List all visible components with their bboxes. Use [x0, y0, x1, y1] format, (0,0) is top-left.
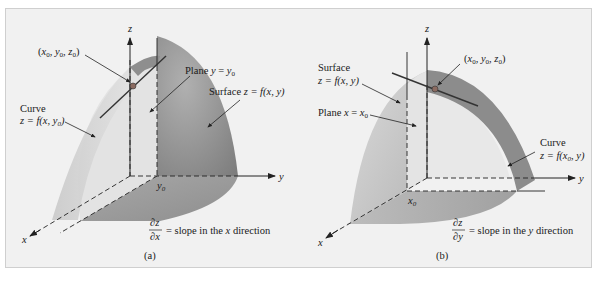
y-axis-label: y: [278, 171, 284, 182]
z-axis-label: z: [127, 23, 132, 34]
caption-b: (b): [436, 250, 449, 262]
svg-text:∂z: ∂z: [150, 217, 159, 228]
point-label: (x0, y0, z0): [38, 46, 80, 59]
z-axis-label: z: [424, 23, 429, 34]
point-leader: [85, 55, 130, 82]
x-axis: [326, 230, 338, 238]
svg-text:∂z: ∂z: [453, 217, 462, 228]
panel-b: z y x (x0, y0, z0) Surface z = f(x, y) P…: [317, 23, 585, 262]
surface-label: Surface z = f(x, y): [209, 86, 285, 98]
point-marker: [130, 83, 136, 89]
surface-right: [157, 36, 238, 176]
surface-label-eq: z = f(x, y): [317, 75, 359, 87]
derivative-annotation: ∂z ∂x = slope in the x direction: [149, 217, 271, 242]
surface-leader: [362, 84, 400, 103]
partial-derivatives-figure: z y x (x0, y0, z0) Plane y = y0 Surface …: [0, 0, 599, 282]
caption-a: (a): [144, 250, 156, 262]
surface-label-title: Surface: [318, 62, 350, 73]
svg-text:∂x: ∂x: [150, 231, 160, 242]
panel-a: z y x (x0, y0, z0) Plane y = y0 Surface …: [19, 23, 285, 262]
derivative-annotation: ∂z ∂y = slope in the y direction: [452, 217, 574, 242]
curve-label-title: Curve: [540, 137, 566, 148]
point-label: (x0, y0, z0): [464, 53, 506, 66]
x-axis-label: x: [317, 237, 323, 248]
plane-region: [407, 71, 427, 191]
svg-text:= slope in the y direction: = slope in the y direction: [469, 225, 574, 236]
point-marker: [432, 86, 438, 92]
curve-label-eq: z = f(x, y0): [19, 115, 65, 128]
y-axis-label: y: [578, 173, 584, 184]
svg-text:∂y: ∂y: [453, 231, 463, 242]
x-axis: [30, 230, 40, 236]
x-axis-label: x: [21, 234, 27, 245]
svg-text:= slope in the x direction: = slope in the x direction: [166, 225, 271, 236]
plane-label: Plane x = x0: [318, 107, 368, 120]
curve-label-eq: z = f(x0, y): [539, 150, 585, 163]
curve-label-title: Curve: [20, 103, 46, 114]
